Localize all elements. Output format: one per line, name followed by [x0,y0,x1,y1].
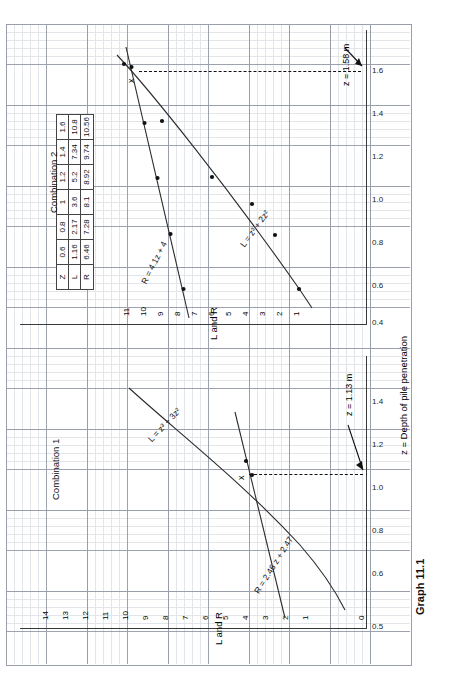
combo1-depth-axis [366,356,367,628]
combo2-value-axis [20,324,367,325]
combo2-value-tick-10: 10 [139,307,148,316]
table-cell: 2.17 [69,215,81,240]
combo2-value-tick-1: 1 [292,312,301,316]
table-cell: 1.16 [69,240,81,265]
combo1-depth-tick-1.0: 1.0 [372,483,383,492]
combo2-value-tick-4: 4 [241,312,250,316]
combo1-value-tick-0: 0 [357,616,366,620]
combo1-value-tick-14: 14 [41,611,50,620]
combo2-value-tick-8: 8 [173,312,182,316]
combo1-value-tick-4: 4 [241,616,250,620]
combo1-depth-tick-1.2: 1.2 [372,440,383,449]
combo2-value-tick-5: 5 [224,312,233,316]
combo2-value-tick-2: 2 [275,312,284,316]
table-cell: 0.6 [57,240,69,265]
figure-caption: Graph 11.1 [414,559,426,615]
table-cell: 7.28 [81,215,93,240]
combo2-solution-label: z = 1.58 m [341,44,351,86]
table-row-head: L [69,265,81,290]
combo2-value-axis-label: L and R [208,307,219,340]
combination1-title: Combination 1 [50,439,61,500]
combo1-depth-tick-0.6: 0.6 [372,569,383,578]
combo1-value-tick-2: 2 [281,616,290,620]
combo1-value-axis-label: L and R [213,612,224,645]
combo1-value-tick-3: 3 [261,616,270,620]
combo2-value-tick-7: 7 [190,312,199,316]
table-cell: 5.2 [69,165,81,190]
combo1-value-tick-7: 7 [181,616,190,620]
combo1-solution-marker: x [236,476,246,481]
table-cell: 7.34 [69,140,81,165]
table-row: R 6.46 7.28 8.1 8.92 9.74 10.56 [81,114,93,289]
combo2-depth-tick-1.4: 1.4 [372,109,383,118]
table-cell: 10.8 [69,114,81,139]
combination2-title: Combination 2 [48,152,59,213]
table-cell: 10.56 [81,114,93,139]
combo1-value-tick-10: 10 [121,611,130,620]
combo2-value-tick-9: 9 [156,312,165,316]
table-cell: 8.92 [81,165,93,190]
combo2-value-tick-3: 3 [258,312,267,316]
combo1-value-tick-12: 12 [81,611,90,620]
combo1-depth-tick-0.5: 0.5 [372,622,383,631]
combo1-value-axis [20,628,367,629]
combo2-solution-dashed-line [139,71,361,72]
combo2-depth-axis [366,30,367,325]
combo1-depth-tick-1.4: 1.4 [372,397,383,406]
combo1-value-tick-13: 13 [61,611,70,620]
combo1-value-tick-11: 11 [101,612,110,620]
combo1-solution-dashed-line [249,474,363,475]
combo2-depth-tick-1.2: 1.2 [372,152,383,161]
table-row: L 1.16 2.17 3.6 5.2 7.34 10.8 [69,114,81,289]
combo2-depth-tick-0.6: 0.6 [372,281,383,290]
combo2-depth-tick-1.6: 1.6 [372,66,383,75]
combo2-depth-tick-0.8: 0.8 [372,238,383,247]
combo1-value-tick-8: 8 [161,616,170,620]
table-row-head: R [81,265,93,290]
table-cell: 0.8 [57,215,69,240]
table-cell: 9.74 [81,140,93,165]
combo1-depth-tick-0.8: 0.8 [372,526,383,535]
combo2-solution-marker: x [126,79,136,84]
combo2-depth-tick-1.0: 1.0 [372,195,383,204]
figure-page: 1.6 1.4 1.2 1.0 0.8 0.6 0.4 11 10 9 8 7 … [0,0,453,674]
table-cell: 8.1 [81,190,93,215]
table-cell: 1.6 [57,114,69,139]
combination2-data-table: Z 0.6 0.8 1 1.2 1.4 1.6 L 1.16 2.17 3.6 … [56,114,94,290]
depth-axis-description: z = Depth of pile penetration [398,336,409,455]
table-cell: 6.46 [81,240,93,265]
combo1-value-tick-6: 6 [201,616,210,620]
combo1-solution-label: z = 1.13 m [344,374,354,416]
table-row-head: Z [57,265,69,290]
table-cell: 3.6 [69,190,81,215]
combo2-depth-tick-0.4: 0.4 [372,318,383,327]
combo1-value-tick-1: 1 [301,616,310,620]
combo2-value-tick-11: 11 [122,308,131,316]
combo1-value-tick-9: 9 [141,616,150,620]
